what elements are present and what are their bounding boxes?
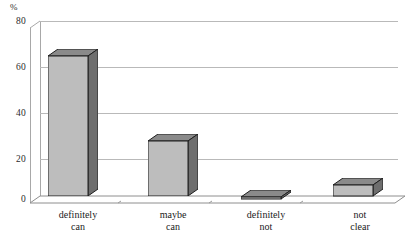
bar-maybe-can [148,134,198,196]
y-tick-label-0: 0 [4,194,26,204]
bar-chart: % 80 60 40 20 0 [0,0,413,249]
category-label-line1: definitely [59,209,97,220]
category-label-line2: not [226,221,306,233]
gridline-80 [40,21,398,22]
category-label-not-clear: not clear [320,209,400,233]
bar-definitely-not [241,187,291,198]
y-tick-label-80: 80 [4,16,26,26]
category-label-line2: can [38,221,118,233]
category-label-maybe-can: maybe can [133,209,213,233]
category-label-line1: definitely [247,209,285,220]
y-tick-label-40: 40 [4,108,26,118]
category-label-definitely-not: definitely not [226,209,306,233]
category-label-definitely-can: definitely can [38,209,118,233]
category-label-line1: maybe [160,209,187,220]
axis-line-back-left [40,21,41,196]
bar-not-clear [333,178,383,198]
y-tick-label-60: 60 [4,62,26,72]
category-label-line2: clear [320,221,400,233]
y-axis-unit-label: % [10,2,18,12]
bar-definitely-can [48,49,98,196]
category-label-line2: can [133,221,213,233]
category-label-line1: not [354,209,367,220]
axis-line-front-left [30,28,31,203]
y-tick-label-20: 20 [4,154,26,164]
